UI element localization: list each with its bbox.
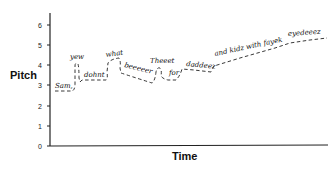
tick-label: 5 bbox=[38, 42, 42, 49]
word-yew: yew bbox=[69, 53, 84, 61]
word-dohnt: dohnt bbox=[84, 71, 105, 79]
tick-label: 0 bbox=[38, 143, 42, 150]
tick-label: 3 bbox=[38, 82, 42, 89]
x-axis-line bbox=[50, 145, 328, 146]
pitch-time-chart: 0 1 2 3 4 5 6 Pitch Time Sam, yew dohnt … bbox=[0, 0, 336, 170]
word-what: what bbox=[105, 49, 124, 59]
y-tick-labels: 0 1 2 3 4 5 6 bbox=[38, 22, 42, 150]
x-axis-title: Time bbox=[172, 150, 197, 162]
tick-label: 6 bbox=[38, 22, 42, 29]
word-for: for bbox=[168, 69, 180, 77]
word-and-kidz-with-fayek: and kidz with fayek bbox=[214, 36, 283, 58]
tick-label: 2 bbox=[38, 103, 42, 110]
word-theeet: Theeet bbox=[150, 57, 175, 65]
tick-label: 1 bbox=[38, 123, 42, 130]
tick-label: 4 bbox=[38, 62, 42, 69]
word-daddeez: daddeez bbox=[186, 60, 216, 71]
y-axis-title: Pitch bbox=[10, 69, 37, 81]
word-sam: Sam, bbox=[55, 82, 73, 90]
word-eyedeeez: eyedeeez bbox=[288, 28, 322, 38]
